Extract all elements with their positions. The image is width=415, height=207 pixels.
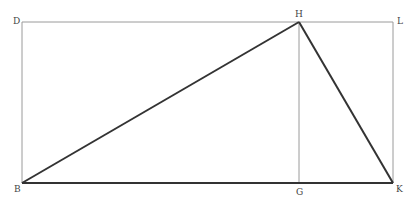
line-HK [299,22,393,183]
line-BH [22,22,299,183]
geometry-diagram: D H L B G K [0,0,415,207]
label-L: L [397,16,403,26]
label-H: H [295,9,303,19]
label-G: G [296,187,303,197]
diagram-svg: D H L B G K [0,0,415,207]
label-K: K [396,184,403,194]
label-D: D [13,16,20,26]
label-B: B [14,184,21,194]
